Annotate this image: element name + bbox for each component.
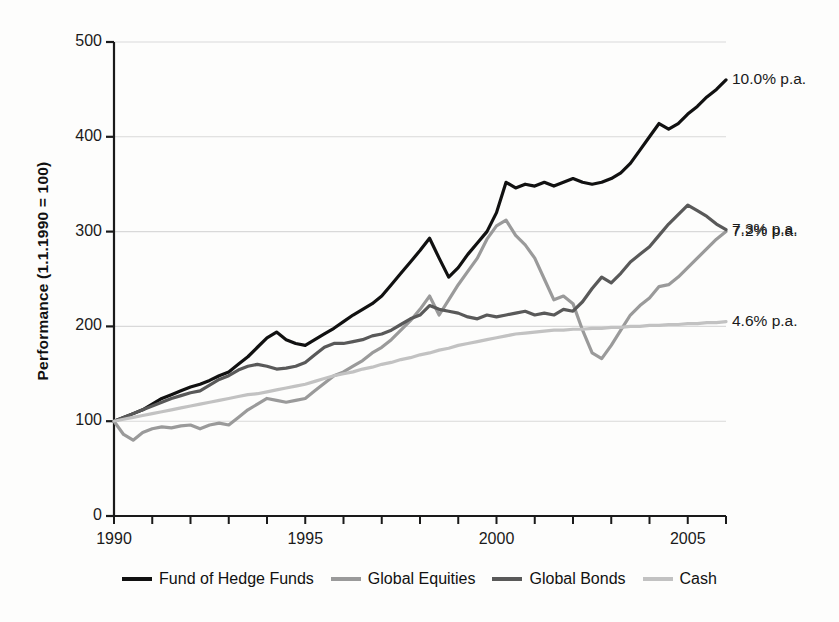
legend-label: Fund of Hedge Funds	[159, 570, 314, 588]
y-tick-label: 0	[58, 506, 102, 524]
series-line-fund-of-hedge-funds	[114, 80, 726, 421]
gridlines-group	[114, 42, 726, 421]
legend-label: Cash	[680, 570, 717, 588]
x-tick-label: 1995	[275, 530, 335, 548]
chart-legend: Fund of Hedge FundsGlobal EquitiesGlobal…	[0, 570, 839, 588]
y-tick-label: 500	[58, 32, 102, 50]
performance-chart: Performance (1.1.1990 = 100) 01002003004…	[0, 0, 839, 622]
y-tick-label: 300	[58, 222, 102, 240]
legend-item[interactable]: Global Bonds	[492, 570, 625, 588]
annotation-label: 7.2% p.a.	[732, 222, 798, 240]
series-line-global-equities	[114, 220, 726, 440]
x-tick-label: 1990	[84, 530, 144, 548]
y-tick-label: 100	[58, 411, 102, 429]
chart-plot-area	[0, 0, 839, 622]
annotation-label: 10.0% p.a.	[732, 70, 806, 88]
legend-label: Global Equities	[368, 570, 476, 588]
data-series-group	[114, 80, 726, 440]
x-tick-marks-group	[114, 516, 726, 524]
legend-swatch-icon	[122, 577, 152, 581]
y-tick-label: 200	[58, 316, 102, 334]
y-axis-title: Performance (1.1.1990 = 100)	[34, 121, 52, 421]
series-line-cash	[114, 322, 726, 422]
legend-swatch-icon	[331, 577, 361, 581]
legend-item[interactable]: Global Equities	[331, 570, 476, 588]
annotation-label: 4.6% p.a.	[732, 312, 798, 330]
legend-item[interactable]: Fund of Hedge Funds	[122, 570, 314, 588]
axes-group	[114, 42, 726, 516]
legend-swatch-icon	[492, 577, 522, 581]
legend-item[interactable]: Cash	[643, 570, 717, 588]
y-tick-label: 400	[58, 127, 102, 145]
x-tick-label: 2000	[467, 530, 527, 548]
x-tick-label: 2005	[658, 530, 718, 548]
y-tick-marks-group	[106, 42, 114, 516]
legend-label: Global Bonds	[529, 570, 625, 588]
legend-swatch-icon	[643, 577, 673, 581]
